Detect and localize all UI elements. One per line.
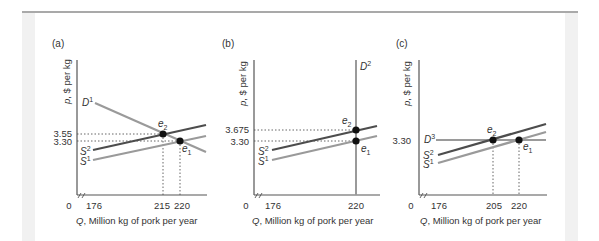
point-label-e1: e1 bbox=[361, 143, 371, 156]
curve-label-s1: S1 bbox=[258, 155, 269, 167]
panel-b: (b) p, $ per kg D2 S2 S1 e2 e1 3.675 3.3… bbox=[222, 38, 380, 226]
point-label-e2: e2 bbox=[158, 118, 168, 131]
y-tick-label: 3.30 bbox=[54, 136, 73, 147]
x-tick-label: 215 bbox=[154, 200, 170, 211]
point-label-e2: e2 bbox=[487, 124, 497, 137]
x-origin-label: 0 bbox=[408, 200, 413, 211]
x-axis-title: Q, Million kg of pork per year bbox=[420, 215, 541, 226]
y-tick-label: 3.30 bbox=[231, 136, 250, 147]
y-axis-title-rest: , $ per kg bbox=[61, 59, 72, 99]
curve-label-d3: D3 bbox=[424, 133, 435, 145]
y-axis-title: p, $ per kg bbox=[237, 61, 248, 107]
x-tick-label: 220 bbox=[348, 200, 364, 211]
curve-label-d1: D1 bbox=[82, 96, 93, 108]
x-origin-label: 0 bbox=[66, 200, 71, 211]
point-label-e2: e2 bbox=[342, 115, 352, 128]
panel-a: (a) p, $ per kg D1 S2 S1 e2 e1 3.55 3.30… bbox=[52, 38, 207, 226]
equilibrium-point-e1 bbox=[515, 136, 522, 143]
curve-label-s1: S1 bbox=[423, 158, 434, 170]
x-break-label: 176 bbox=[265, 200, 281, 211]
equilibrium-point-e2 bbox=[489, 136, 496, 143]
equilibrium-point-e2 bbox=[352, 126, 359, 133]
point-label-e1: e1 bbox=[523, 141, 533, 154]
curve-label-d2: D2 bbox=[360, 60, 371, 72]
x-tick-label: 205 bbox=[486, 200, 502, 211]
y-tick-label: 3.30 bbox=[393, 135, 412, 146]
supply-curve-s2 bbox=[93, 125, 206, 150]
figure-canvas: (a) p, $ per kg D1 S2 S1 e2 e1 3.55 3.30… bbox=[0, 0, 599, 241]
panel-label: (a) bbox=[52, 38, 64, 49]
x-break-label: 176 bbox=[86, 200, 102, 211]
x-tick-label: 220 bbox=[511, 200, 527, 211]
panel-c: (c) p, $ per kg D3 S2 S1 e2 e1 3.30 0 17… bbox=[393, 38, 548, 226]
curve-label-s1: S1 bbox=[80, 155, 91, 167]
panel-label: (c) bbox=[396, 38, 408, 49]
x-origin-label: 0 bbox=[243, 200, 248, 211]
equilibrium-point-e1 bbox=[352, 137, 359, 144]
x-tick-label: 220 bbox=[174, 200, 190, 211]
x-axis-title: Q, Million kg of pork per year bbox=[76, 215, 197, 226]
x-break-label: 176 bbox=[431, 200, 447, 211]
x-axis-title: Q, Million kg of pork per year bbox=[252, 215, 373, 226]
y-tick-label: 3.675 bbox=[225, 124, 249, 135]
supply-curve-s1 bbox=[93, 136, 206, 160]
equilibrium-point-e2 bbox=[159, 130, 166, 137]
demand-curve-d1 bbox=[95, 103, 206, 152]
panel-label: (b) bbox=[222, 38, 234, 49]
y-axis-title: p, $ per kg bbox=[61, 59, 72, 105]
y-axis-title: p, $ per kg bbox=[401, 61, 412, 107]
